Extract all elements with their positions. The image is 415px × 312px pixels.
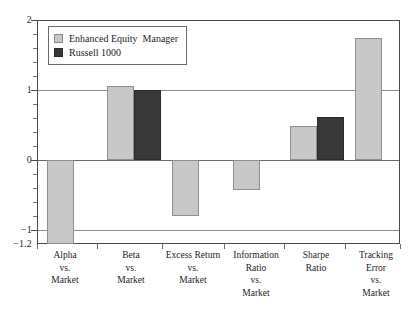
y-axis-label-0: 0 <box>27 155 32 165</box>
y-tick-minor <box>33 118 37 119</box>
gridline-1 <box>38 90 399 91</box>
y-tick-minor <box>33 188 37 189</box>
legend-label-russell: Russell 1000 <box>69 48 121 58</box>
legend-item-russell: Russell 1000 <box>54 46 178 59</box>
bar-beta-russell <box>134 90 161 160</box>
y-tick-minor <box>33 62 37 63</box>
x-axis-category-information-ratio: Information Ratio vs. Market <box>222 249 290 299</box>
bar-sharpe-ratio-manager <box>290 126 317 160</box>
legend-item-manager: Enhanced Equity Manager <box>54 32 178 45</box>
y-axis-label-minus-1: −1 <box>21 225 32 235</box>
x-axis-category-sharpe-ratio: Sharpe Ratio <box>288 249 344 274</box>
y-tick-minor <box>33 48 37 49</box>
bar-beta-manager <box>107 86 134 160</box>
legend-swatch-icon-russell <box>54 48 63 57</box>
bar-tracking-error-manager <box>355 38 382 160</box>
y-tick-minor <box>33 216 37 217</box>
x-axis-category-alpha: Alpha vs. Market <box>34 249 96 287</box>
legend-swatch-icon-manager <box>54 34 63 43</box>
y-axis-label-2: 2 <box>27 15 32 25</box>
legend-label-manager: Enhanced Equity Manager <box>69 34 178 44</box>
y-tick-minor <box>33 104 37 105</box>
gridline-minus-1 <box>38 230 399 231</box>
y-tick-minor <box>33 34 37 35</box>
y-tick-minor <box>33 76 37 77</box>
y-tick-minor <box>33 174 37 175</box>
y-axis-label-1: 1 <box>27 85 32 95</box>
bar-alpha-manager <box>47 160 74 244</box>
x-axis-category-tracking-error: Tracking Error vs. Market <box>346 249 406 299</box>
bar-chart: 2 1 0 −1 −1.2 Alpha vs. Market Beta vs. … <box>0 0 415 312</box>
legend: Enhanced Equity Manager Russell 1000 <box>48 26 187 65</box>
y-tick-minor <box>33 202 37 203</box>
y-tick-minor <box>33 146 37 147</box>
bar-sharpe-ratio-russell <box>317 117 344 160</box>
x-axis-category-excess-return: Excess Return vs. Market <box>154 249 232 287</box>
y-axis-label-minus-1-2: −1.2 <box>13 239 32 249</box>
y-axis-line <box>37 20 38 244</box>
gridline-0 <box>38 160 399 161</box>
y-tick-minor <box>33 132 37 133</box>
x-axis-category-beta: Beta vs. Market <box>103 249 159 287</box>
bar-excess-return-manager <box>172 160 199 216</box>
x-tick <box>97 244 98 249</box>
bar-information-ratio-manager <box>233 160 260 190</box>
